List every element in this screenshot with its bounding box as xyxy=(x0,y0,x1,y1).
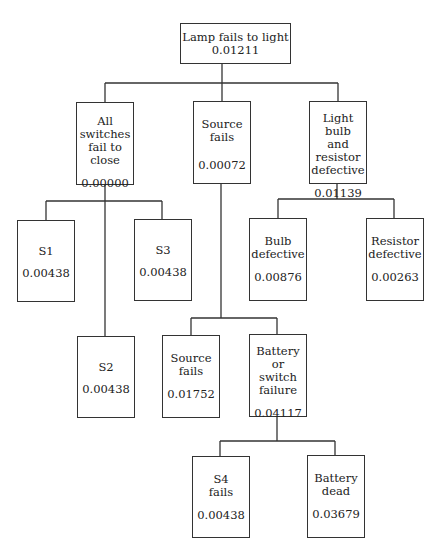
node-resistor-defective: Resistor defective 0.00263 xyxy=(366,218,424,301)
node-label: Battery dead xyxy=(314,472,357,498)
node-s2: S2 0.00438 xyxy=(77,336,135,418)
node-battery-or-switch-failure: Battery or switch failure 0.04117 xyxy=(249,334,307,417)
node-probability: 0.04117 xyxy=(254,407,302,420)
node-s3: S3 0.00438 xyxy=(134,219,192,301)
node-probability: 0.01211 xyxy=(212,44,260,57)
node-label: Source fails xyxy=(202,118,243,144)
node-label: Bulb defective xyxy=(251,235,304,261)
node-label: Source fails xyxy=(171,352,212,378)
node-label: All switches fail to close xyxy=(77,115,133,167)
node-s4-fails: S4 fails 0.00438 xyxy=(192,456,250,538)
node-label: Battery or switch failure xyxy=(250,345,306,397)
node-probability: 0.00438 xyxy=(139,266,187,279)
node-probability: 0.00072 xyxy=(198,159,246,172)
node-label: Light bulb and resistor defective xyxy=(310,112,366,177)
node-probability: 0.01139 xyxy=(314,187,362,200)
node-probability: 0.00438 xyxy=(22,267,70,280)
node-s1: S1 0.00438 xyxy=(17,220,75,302)
node-probability: 0.03679 xyxy=(312,508,360,521)
node-all-switches-fail: All switches fail to close 0.00000 xyxy=(76,102,134,185)
node-source-fails-2: Source fails 0.01752 xyxy=(162,335,220,418)
node-label: S1 xyxy=(38,245,53,258)
node-light-bulb-resistor-defective: Light bulb and resistor defective 0.0113… xyxy=(309,101,367,184)
node-label: Lamp fails to light xyxy=(182,31,288,44)
node-probability: 0.00876 xyxy=(254,271,302,284)
node-bulb-defective: Bulb defective 0.00876 xyxy=(249,218,307,301)
node-lamp-fails-to-light: Lamp fails to light 0.01211 xyxy=(180,23,291,64)
node-label: S3 xyxy=(155,244,170,257)
node-probability: 0.01752 xyxy=(167,388,215,401)
node-label: Resistor defective xyxy=(368,235,421,261)
node-probability: 0.00438 xyxy=(197,509,245,522)
node-probability: 0.00000 xyxy=(81,177,129,190)
node-label: S2 xyxy=(98,361,113,374)
node-battery-dead: Battery dead 0.03679 xyxy=(307,455,365,538)
node-label: S4 fails xyxy=(209,473,233,499)
node-probability: 0.00438 xyxy=(82,383,130,396)
node-source-fails-1: Source fails 0.00072 xyxy=(193,101,251,184)
node-probability: 0.00263 xyxy=(371,271,419,284)
